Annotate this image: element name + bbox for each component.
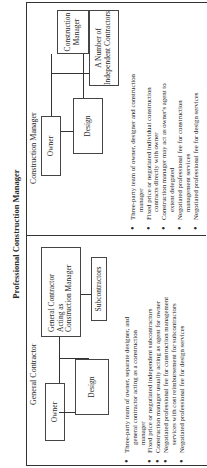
- gc-bullet-1: Three-party team of owner, separate desi…: [123, 241, 146, 463]
- cm-line-2: Manager: [73, 13, 82, 52]
- cm-bullet-5: Negotiated professional fee for design s…: [192, 8, 200, 230]
- rotated-figure: Professional Construction Manager Genera…: [0, 0, 207, 468]
- gc-line-3: Construction Manager: [65, 265, 74, 332]
- panel-general-contractor: General Contractor Owner Design General …: [27, 236, 205, 465]
- panel-title-construction-manager: Construction Manager: [29, 112, 38, 184]
- cm-bullet-2: Fixed price or negotiated individual con…: [145, 8, 161, 230]
- cm-bullet-4: Negotiated professional fee for construc…: [176, 8, 192, 230]
- gc-bullet-2: Fixed price or negotiated independent su…: [146, 241, 154, 463]
- construction-manager-box: Construction Manager: [57, 10, 89, 54]
- design-label: Design: [88, 376, 97, 397]
- connector-owner-gc: [59, 337, 60, 383]
- connector-gc-subs: [81, 294, 91, 295]
- subcontractors-box: Subcontractors: [91, 257, 107, 321]
- design-box: Design: [75, 359, 109, 415]
- panel-construction-manager: Construction Manager Owner Design Constr…: [27, 5, 205, 234]
- cm-owner-label: Owner: [47, 136, 56, 156]
- ic-line-2: Independent Contractors: [104, 11, 113, 85]
- gc-bullet-list: Three-party team of owner, separate desi…: [123, 241, 186, 463]
- cm-owner-box: Owner: [41, 116, 61, 176]
- connector-vertical: [59, 412, 75, 413]
- cm-design-box: Design: [73, 98, 103, 154]
- cm-bullet-3: Construction manager may act as owner's …: [160, 8, 176, 230]
- gc-acting-as-cm-box: General Contractor Acting as Constructio…: [41, 247, 81, 337]
- cm-design-label: Design: [84, 115, 93, 136]
- connector-design-gc: [59, 358, 89, 359]
- subcontractors-label: Subcontractors: [95, 267, 104, 312]
- cm-bullet-1: Three-party team of owner, designer and …: [129, 8, 145, 230]
- independent-contractors-box: A Number of Independent Contractors: [89, 10, 119, 86]
- cm-connector-owner-cm: [51, 54, 52, 116]
- gc-bullet-3: Construction manager usually acting as a…: [154, 241, 162, 463]
- cm-connector-vertical: [51, 73, 89, 74]
- gc-bullet-5: Negotiated professional fee for design s…: [178, 241, 186, 463]
- figure-title: Professional Construction Manager: [11, 0, 21, 468]
- cm-connector-owner-design: [61, 131, 73, 132]
- gc-bullet-4: Negotiated professional fee for construc…: [162, 241, 178, 463]
- cm-connector-design-cm: [83, 54, 84, 98]
- cm-bullet-list: Three-party team of owner, designer and …: [129, 8, 199, 230]
- panel-title-general-contractor: General Contractor: [29, 343, 38, 405]
